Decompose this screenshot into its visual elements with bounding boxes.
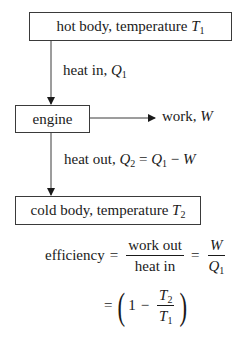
work-over-heat-fraction: work out heat in xyxy=(126,236,184,275)
hot-body-label: hot body, temperature T1 xyxy=(56,18,204,35)
cold-body-label: cold body, temperature T2 xyxy=(31,202,186,219)
cold-body-box: cold body, temperature T2 xyxy=(15,196,201,225)
heat-out-label: heat out, Q2 = Q1 − W xyxy=(64,151,196,168)
efficiency-label: efficiency xyxy=(45,247,105,264)
work-label: work, W xyxy=(162,108,213,125)
engine-box: engine xyxy=(15,105,90,133)
w-over-q1-fraction: W Q1 xyxy=(206,236,226,275)
t2-over-t1-fraction: T2 T1 xyxy=(157,286,174,325)
hot-body-box: hot body, temperature T1 xyxy=(29,12,232,41)
engine-label: engine xyxy=(33,111,73,128)
efficiency-formula: efficiency = work out heat in = W Q1 xyxy=(45,236,229,275)
heat-in-label: heat in, Q1 xyxy=(63,62,127,79)
carnot-formula: = ( 1 − T2 T1 ) xyxy=(104,286,190,325)
